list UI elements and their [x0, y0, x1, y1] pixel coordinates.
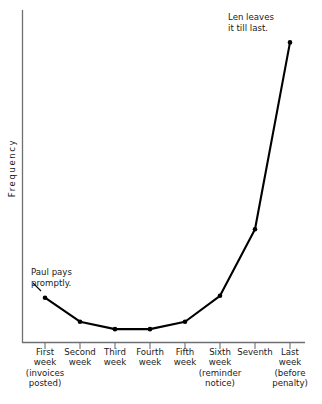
x-axis-tick-labels: First week (invoices posted) Second week…	[0, 347, 322, 404]
x-tick-label-8: Last week (before penalty)	[262, 347, 318, 388]
data-point-8	[288, 40, 293, 45]
data-point-5	[183, 319, 188, 324]
data-point-4	[148, 327, 153, 332]
chart-plot-area	[0, 0, 322, 404]
data-point-2	[78, 319, 83, 324]
data-point-group	[43, 40, 293, 331]
annotation-paul: Paul pays promptly.	[31, 267, 72, 288]
y-axis-label: Frequency	[7, 133, 17, 203]
data-point-1	[43, 295, 48, 300]
data-series-line	[45, 42, 290, 329]
data-point-6	[218, 294, 223, 299]
data-point-7	[253, 227, 258, 232]
data-point-3	[113, 327, 118, 332]
annotation-len: Len leaves it till last.	[228, 12, 274, 33]
line-chart: Frequency Len leaves it till last. Paul …	[0, 0, 322, 404]
